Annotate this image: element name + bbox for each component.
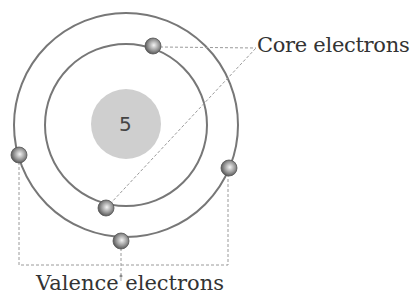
valence-electrons-label: Valence electrons xyxy=(36,271,224,294)
core-electrons-label: Core electrons xyxy=(257,33,409,57)
electron-valence-right xyxy=(221,160,237,176)
electron-valence-left xyxy=(11,147,27,163)
electron-core-bottom xyxy=(98,200,114,216)
valence-leader-lines xyxy=(19,162,228,283)
electron-valence-bottom xyxy=(113,233,129,249)
electron-core-top xyxy=(145,38,161,54)
nucleus-label: 5 xyxy=(119,112,132,136)
